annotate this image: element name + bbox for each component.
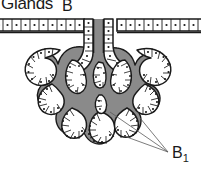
label-b1-subscript: 1 bbox=[183, 152, 189, 164]
tubule-lumen bbox=[93, 62, 106, 88]
label-b1: B1 bbox=[172, 145, 189, 164]
figure-title: Glands bbox=[1, 0, 53, 12]
gland-duct bbox=[94, 19, 104, 53]
acinus bbox=[137, 48, 171, 85]
label-b: B bbox=[62, 0, 73, 14]
gland-diagram-svg bbox=[0, 0, 201, 174]
label-b1-letter: B bbox=[172, 144, 183, 161]
tubule-lumen bbox=[95, 95, 107, 113]
gland-histology-figure: Glands B B1 bbox=[0, 0, 201, 174]
